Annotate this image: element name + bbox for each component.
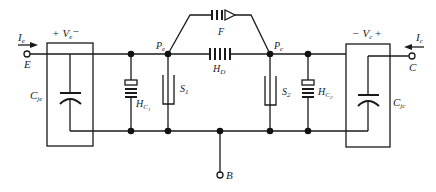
emitter-voltage-label: +Ve− bbox=[52, 25, 80, 41]
collector-voltage-label: −Vc+ bbox=[352, 27, 382, 41]
collector-label: C bbox=[409, 61, 417, 73]
cje-capacitor-icon bbox=[60, 54, 131, 131]
cjc-label: Cjc bbox=[393, 96, 406, 110]
emitter-label: E bbox=[23, 58, 31, 70]
hd-label: HD bbox=[212, 63, 225, 76]
hc1-element-icon bbox=[125, 54, 137, 131]
pc-label: Pc bbox=[273, 40, 284, 53]
emitter-current-label: Ie bbox=[17, 31, 25, 45]
cjc-capacitor-icon bbox=[358, 56, 409, 131]
hc1-label: HC1 bbox=[135, 98, 150, 112]
s1-element-icon bbox=[163, 54, 174, 131]
collector-terminal bbox=[409, 53, 415, 59]
hc2-element-icon bbox=[302, 54, 368, 131]
f-label: F bbox=[217, 26, 225, 37]
pe-label: Pe bbox=[155, 40, 165, 53]
s2-label: S2 bbox=[282, 86, 291, 99]
hc2-label: HC2 bbox=[317, 86, 333, 100]
collector-current-label: Ic bbox=[415, 31, 424, 45]
cje-label: Cje bbox=[30, 89, 42, 103]
emitter-terminal bbox=[24, 51, 131, 57]
base-terminal bbox=[217, 172, 223, 178]
hd-element-icon bbox=[168, 48, 270, 60]
circuit-diagram: Ie E +Ve− Cje HC1 S1 HD bbox=[0, 0, 436, 192]
s2-element-icon bbox=[265, 54, 276, 131]
base-label: B bbox=[226, 169, 233, 181]
s1-label: S1 bbox=[180, 83, 189, 96]
